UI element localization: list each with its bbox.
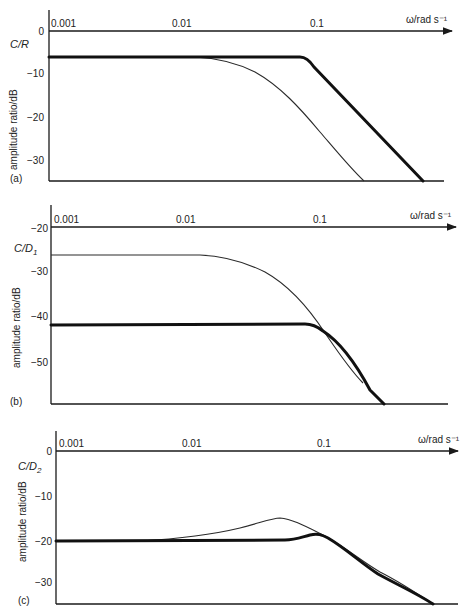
y-tick-2: −40: [31, 311, 48, 322]
panel-a: 0.001 0.01 0.1 ω/rad s⁻¹ 0 −10 −20 −30 C…: [8, 10, 452, 184]
panel-label: (c): [18, 595, 30, 606]
panel-label: (b): [10, 396, 22, 407]
x-unit-label: ω/rad s⁻¹: [418, 434, 460, 445]
panel-b: 0.001 0.01 0.1 ω/rad s⁻¹ −20 −30 −40 −50…: [10, 205, 456, 407]
y-tick-3: −50: [31, 357, 48, 368]
y-tick-2: −20: [35, 536, 52, 547]
panel-c: 0.001 0.01 0.1 ω/rad s⁻¹ 0 −10 −20 −30 C…: [17, 431, 460, 606]
y-axis-label: amplitude ratio/dB: [8, 89, 19, 170]
y-tick-2: −20: [27, 112, 44, 123]
series-thick: [51, 324, 384, 404]
series-thin: [56, 518, 433, 604]
y-tick-3: −30: [35, 577, 52, 588]
x-unit-label: ω/rad s⁻¹: [410, 210, 452, 221]
y-tick-1: −10: [27, 68, 44, 79]
x-tick-2: 0.1: [317, 438, 331, 449]
x-tick-0: 0.001: [59, 438, 84, 449]
y-tick-1: −30: [31, 266, 48, 277]
y-tick-0: −20: [31, 223, 48, 234]
x-tick-1: 0.01: [176, 214, 196, 225]
panel-title: C/D2: [18, 460, 42, 475]
series-thin: [49, 57, 364, 181]
series-thick: [49, 57, 423, 181]
bode-plots-figure: 0.001 0.01 0.1 ω/rad s⁻¹ 0 −10 −20 −30 C…: [0, 0, 465, 615]
series-thick: [56, 534, 433, 604]
x-tick-1: 0.01: [172, 18, 192, 29]
panel-label: (a): [10, 173, 22, 184]
panel-title: C/R: [10, 38, 29, 50]
x-tick-0: 0.001: [54, 214, 79, 225]
x-tick-0: 0.001: [51, 18, 76, 29]
series-thin: [51, 255, 363, 383]
x-unit-label: ω/rad s⁻¹: [406, 14, 448, 25]
x-tick-2: 0.1: [310, 18, 324, 29]
y-tick-3: −30: [27, 155, 44, 166]
y-tick-0: 0: [46, 446, 52, 457]
x-tick-1: 0.01: [182, 438, 202, 449]
y-tick-1: −10: [35, 491, 52, 502]
y-axis-label: amplitude ratio/dB: [11, 287, 22, 368]
y-axis-label: amplitude ratio/dB: [17, 481, 28, 562]
y-tick-0: 0: [38, 26, 44, 37]
panel-title: C/D1: [14, 242, 37, 257]
x-tick-2: 0.1: [313, 214, 327, 225]
